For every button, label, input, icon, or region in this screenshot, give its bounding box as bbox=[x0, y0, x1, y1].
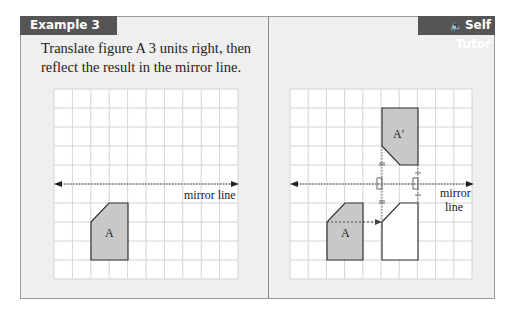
mirror-label-line1: mirror bbox=[440, 186, 471, 201]
mirror-label-line2: line bbox=[445, 200, 463, 215]
shape-a-label-right: A bbox=[341, 226, 350, 241]
right-diagram bbox=[0, 0, 509, 317]
shape-a-prime-label: A′ bbox=[393, 127, 404, 142]
